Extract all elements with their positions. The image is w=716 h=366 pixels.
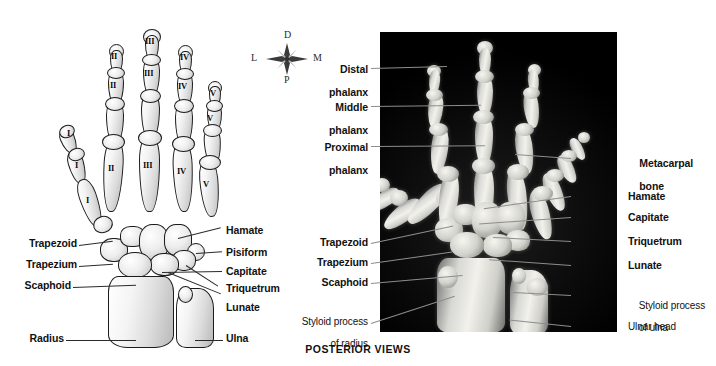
xray-thumb-proximal-head: [390, 190, 408, 206]
label-line-1: Middle: [335, 101, 368, 113]
label-proximal-phalanx-xray: Proximal phalanx: [288, 130, 368, 188]
xray-metacarpal-2-head: [437, 166, 459, 182]
bone-little-proximal-head: [203, 124, 222, 137]
label-line-1: Distal: [340, 63, 368, 75]
numeral-metacarpal-4: IV: [177, 166, 186, 176]
label-line-2: phalanx: [329, 164, 368, 176]
label-trapezoid-drawing: Trapezoid: [0, 238, 77, 250]
xray-metacarpal-3-head: [472, 158, 495, 174]
figure-canvas: I I I II II II III III III IV IV IV V V …: [0, 0, 716, 366]
label-trapezium-xray: Trapezium: [288, 257, 368, 269]
compass-label-lateral: L: [251, 52, 257, 63]
bone-ulnar-styloid: [178, 286, 193, 303]
xray-metacarpal-4-head: [507, 164, 529, 180]
numeral-metacarpal-1: I: [86, 195, 89, 205]
label-capitate-xray: Capitate: [628, 212, 669, 224]
numeral-index-distal: II: [111, 51, 117, 61]
xray-ring-proximal-head: [515, 123, 534, 136]
label-trapezium-drawing: Trapezium: [0, 259, 77, 271]
label-styloid-process-ulna-xray: Styloid process of ulna: [628, 289, 705, 344]
bone-scaphoid: [118, 252, 152, 278]
numeral-thumb-distal: I: [67, 128, 70, 138]
bone-ring-proximal-head: [174, 99, 194, 113]
label-trapezoid-xray: Trapezoid: [288, 237, 368, 249]
label-line-1: Styloid process: [639, 300, 705, 311]
compass-label-proximal: P: [284, 74, 290, 85]
numeral-metacarpal-5: V: [203, 179, 209, 189]
bone-ring-middle-head: [176, 68, 194, 80]
label-triquetrum-xray: Triquetrum: [628, 236, 682, 248]
bone-metacarpal-4-head: [172, 136, 195, 152]
label-lunate-drawing: Lunate: [226, 302, 260, 314]
label-line-1: Metacarpal: [639, 157, 693, 169]
bone-index-middle-head: [107, 67, 125, 79]
xray-little-proximal-head: [546, 169, 564, 182]
numeral-ring-distal: IV: [180, 52, 189, 62]
numeral-metacarpal-3: III: [143, 160, 152, 170]
label-triquetrum-drawing: Triquetrum: [226, 283, 280, 295]
figure-caption: POSTERIOR VIEWS: [0, 343, 716, 355]
bone-little-middle-head: [206, 100, 223, 112]
label-scaphoid-xray: Scaphoid: [288, 277, 368, 289]
leader-line-ulna-drawing: [195, 340, 223, 341]
bone-index-proximal-head: [105, 97, 125, 111]
bone-middle-proximal-head: [140, 89, 161, 103]
xray-index-middle-head: [426, 89, 443, 101]
bone-radius: [108, 276, 174, 348]
xray-index-proximal-head: [429, 123, 448, 136]
xray-scaphoid: [450, 232, 484, 258]
bone-metacarpal-2-head: [102, 134, 125, 150]
label-lunate-xray: Lunate: [628, 260, 662, 272]
numeral-thumb-proximal: I: [75, 160, 78, 170]
bone-middle-middle-head: [142, 54, 161, 66]
label-hamate-drawing: Hamate: [226, 225, 263, 237]
xray-ring-middle-head: [523, 87, 540, 99]
label-scaphoid-drawing: Scaphoid: [0, 280, 71, 292]
label-hamate-xray: Hamate: [628, 191, 665, 203]
numeral-little-distal: V: [210, 88, 216, 98]
bone-metacarpal-5-head: [199, 155, 221, 170]
label-ulnar-head-xray: Ulnar head: [628, 321, 676, 332]
label-pisiform-drawing: Pisiform: [226, 247, 267, 259]
numeral-middle-distal: III: [145, 36, 154, 46]
bone-metacarpal-3-head: [138, 130, 162, 146]
leader-line-radius-drawing: [66, 340, 136, 341]
xray-ulnar-styloid-process: [512, 268, 526, 284]
xray-middle-proximal-head: [473, 110, 494, 124]
xray-little-middle-head: [561, 150, 577, 162]
xray-middle-middle-head: [475, 70, 494, 83]
hand-radiograph: [380, 32, 617, 332]
numeral-metacarpal-2: II: [108, 163, 114, 173]
numeral-index-middle: II: [110, 80, 116, 90]
compass-label-distal: D: [284, 29, 291, 40]
label-capitate-drawing: Capitate: [226, 266, 267, 278]
numeral-middle-middle: III: [144, 68, 153, 78]
numeral-little-middle: V: [207, 113, 213, 123]
numeral-ring-middle: IV: [178, 81, 187, 91]
label-line-1: Proximal: [324, 141, 368, 153]
label-line-1: Styloid process: [302, 316, 368, 327]
